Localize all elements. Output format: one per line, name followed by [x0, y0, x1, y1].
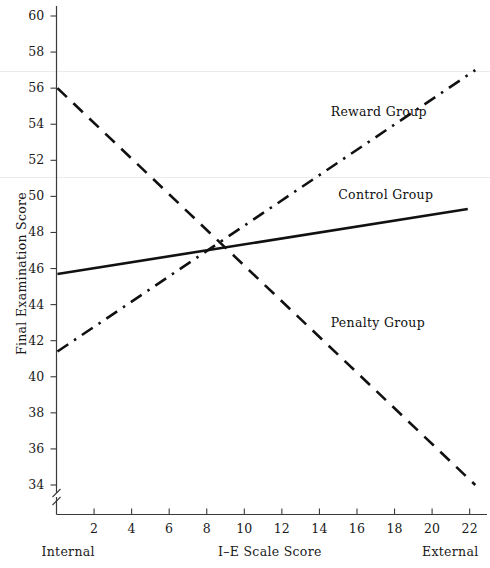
series-label: Reward Group	[331, 104, 427, 119]
data-series	[57, 70, 475, 485]
y-tick-label: 58	[11, 44, 45, 59]
y-tick-label: 54	[11, 116, 45, 131]
y-tick-label: 56	[11, 80, 45, 95]
x-tick-label: 4	[115, 521, 149, 536]
axes	[53, 6, 488, 515]
x-tick-label: 16	[340, 521, 374, 536]
x-tick-label: 12	[265, 521, 299, 536]
chart-figure: Final Examination Score 3436384042444648…	[0, 0, 490, 568]
y-tick-label: 42	[11, 333, 45, 348]
y-tick-label: 46	[11, 261, 45, 276]
y-tick-label: 40	[11, 369, 45, 384]
y-tick-label: 48	[11, 224, 45, 239]
y-tick-label: 44	[11, 297, 45, 312]
x-axis-right-caption: External	[422, 544, 478, 559]
y-tick-label: 50	[11, 188, 45, 203]
y-tick-label: 52	[11, 152, 45, 167]
x-tick-label: 20	[415, 521, 449, 536]
series-line	[57, 88, 475, 485]
y-tick-label: 38	[11, 405, 45, 420]
series-label: Penalty Group	[331, 315, 425, 330]
y-tick-label: 34	[11, 477, 45, 492]
x-axis-label: I–E Scale Score	[218, 544, 322, 559]
series-label: Control Group	[338, 187, 433, 202]
x-tick-label: 8	[190, 521, 224, 536]
x-tick-label: 10	[227, 521, 261, 536]
x-tick-label: 22	[453, 521, 487, 536]
x-axis-left-caption: Internal	[42, 544, 95, 559]
series-line	[57, 209, 467, 274]
x-tick-label: 18	[378, 521, 412, 536]
x-tick-label: 14	[302, 521, 336, 536]
y-tick-label: 60	[11, 8, 45, 23]
plot-area	[0, 0, 490, 568]
y-tick-label: 36	[11, 441, 45, 456]
x-tick-label: 2	[77, 521, 111, 536]
x-tick-label: 6	[152, 521, 186, 536]
